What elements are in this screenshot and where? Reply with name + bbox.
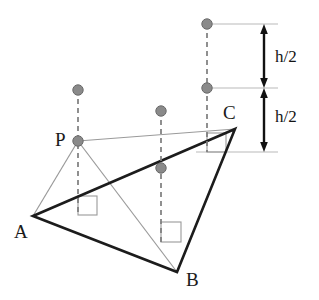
dot-middle-upper [156, 106, 166, 116]
dimension-lower-half-arrow [260, 88, 268, 152]
triangle-abc [33, 129, 235, 272]
right-angle-box-middle [161, 222, 181, 242]
dot-c-mid [202, 83, 212, 93]
segment-p-a [33, 141, 78, 216]
dot-c-top [202, 19, 212, 29]
dot-at-p [73, 136, 83, 146]
geometry-figure: A B C P h/2 h/2 [0, 0, 319, 300]
dots-group [73, 19, 212, 173]
right-angle-box-p [78, 196, 97, 215]
vertex-label-p: P [55, 130, 66, 149]
dimension-label-upper-half: h/2 [275, 48, 297, 65]
dimension-upper-half-arrow [260, 24, 268, 88]
vertex-label-a: A [14, 222, 28, 241]
dot-middle-lower [156, 163, 166, 173]
dot-above-p [73, 85, 83, 95]
figure-canvas [0, 0, 319, 300]
dimension-label-lower-half: h/2 [275, 108, 297, 125]
vertex-label-b: B [186, 270, 199, 289]
vertex-label-c: C [223, 103, 236, 122]
